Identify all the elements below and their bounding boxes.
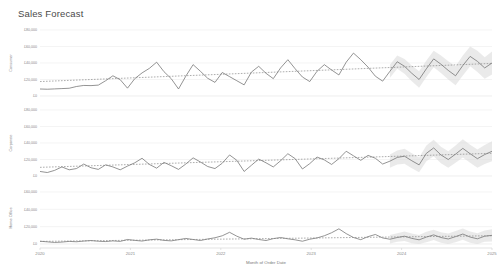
y-tick-label: £0	[33, 174, 37, 178]
y-tick-label: £20,000	[24, 225, 37, 229]
forecast-chart: £0£20,000£40,000£60,000£80,000Consumer£0…	[0, 0, 504, 275]
x-tick-label: 2023	[307, 251, 317, 256]
y-tick-label: £0	[33, 242, 37, 246]
y-tick-label: £80,000	[24, 108, 37, 112]
y-tick-label: £0	[33, 94, 37, 98]
y-axis-title: Consumer	[9, 54, 13, 72]
y-axis-title: Home Office	[9, 207, 13, 228]
panel-corporate: £0£20,000£40,000£60,000£80,000Corporate	[9, 108, 492, 178]
x-tick-label: 2021	[126, 251, 136, 256]
y-tick-label: £60,000	[24, 190, 37, 194]
y-tick-label: £40,000	[24, 61, 37, 65]
x-tick-label: 2025	[487, 251, 497, 256]
y-tick-label: £60,000	[24, 45, 37, 49]
x-tick-label: 2024	[397, 251, 407, 256]
x-tick-label: 2020	[35, 251, 45, 256]
x-axis-title: Month of Order Date	[246, 260, 287, 265]
confidence-band	[390, 139, 492, 172]
y-tick-label: £40,000	[24, 208, 37, 212]
y-tick-label: £20,000	[24, 78, 37, 82]
panel-consumer: £0£20,000£40,000£60,000£80,000Consumer	[9, 28, 492, 98]
x-axis: 202020212022202320242025Month of Order D…	[35, 248, 497, 265]
y-tick-label: £60,000	[24, 125, 37, 129]
panel-home-office: £0£20,000£40,000£60,000Home Office	[9, 190, 492, 246]
x-tick-label: 2022	[216, 251, 226, 256]
y-axis-title: Corporate	[9, 135, 13, 152]
sales-forecast-viz: Sales Forecast £0£20,000£40,000£60,000£8…	[0, 0, 504, 275]
y-tick-label: £40,000	[24, 141, 37, 145]
y-tick-label: £20,000	[24, 158, 37, 162]
y-tick-label: £80,000	[24, 28, 37, 32]
